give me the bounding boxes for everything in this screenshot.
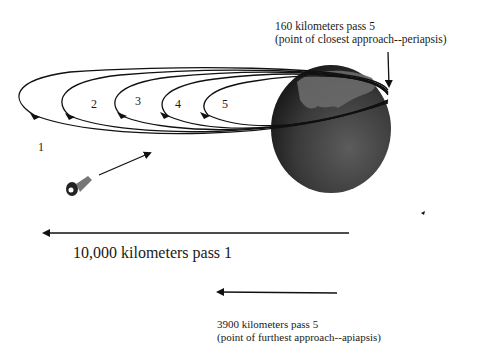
distance-arrow-pass5 [218, 292, 337, 293]
pass-number-3: 3 [135, 94, 141, 109]
periapsis-arrow [388, 52, 389, 86]
periapsis-line1: 160 kilometers pass 5 [275, 20, 446, 33]
trajectory-arrow [99, 153, 150, 175]
pass-number-5: 5 [222, 97, 228, 112]
spacecraft-icon [66, 176, 92, 196]
stray-mark [421, 211, 425, 215]
pass-number-4: 4 [175, 97, 181, 112]
periapsis-line2: (point of closest approach--periapsis) [275, 33, 446, 46]
apoapsis-line2: (point of furthest approach--apiapsis) [217, 331, 381, 344]
apoapsis-line1: 3900 kilometers pass 5 [217, 318, 381, 331]
distance-label-pass1: 10,000 kilometers pass 1 [73, 244, 232, 262]
periapsis-label: 160 kilometers pass 5 (point of closest … [275, 20, 446, 46]
orbit-diagram [0, 0, 478, 351]
pass-number-2: 2 [91, 97, 97, 112]
apoapsis-label: 3900 kilometers pass 5 (point of furthes… [217, 318, 381, 343]
pass-number-1: 1 [38, 140, 44, 155]
